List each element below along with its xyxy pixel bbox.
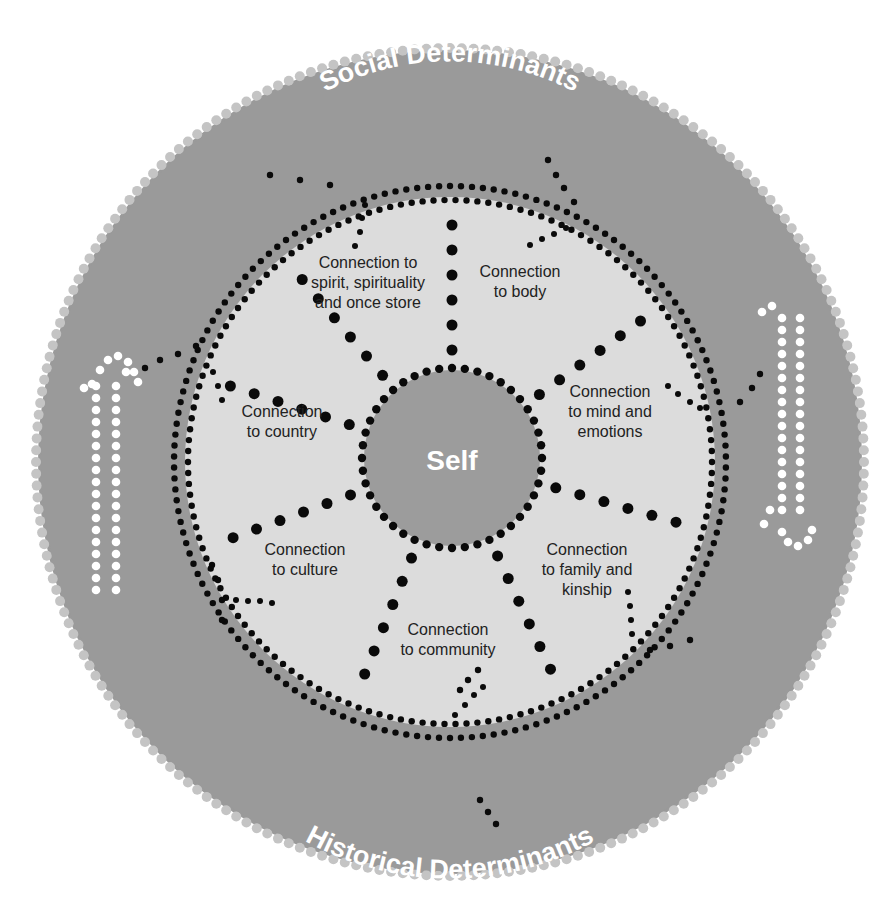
self-label: Self	[426, 445, 478, 476]
domain-label-family: Connection to family and kinship	[522, 540, 652, 600]
domain-label-body: Connection to body	[460, 262, 580, 302]
domain-label-culture: Connection to culture	[240, 540, 370, 580]
sewb-diagram: Social Determinants Historical Determina…	[0, 0, 887, 901]
domain-label-community: Connection to community	[378, 620, 518, 660]
diagram-canvas: Social Determinants Historical Determina…	[0, 0, 887, 901]
domain-label-country: Connection to country	[222, 402, 342, 442]
domain-label-spirit: Connection to spirit, spirituality and o…	[278, 253, 458, 313]
domain-label-mind: Connection to mind and emotions	[550, 382, 670, 442]
